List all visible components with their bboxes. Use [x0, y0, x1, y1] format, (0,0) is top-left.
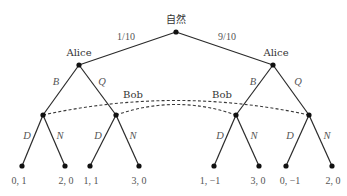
game-tree: 自然 Alice Alice Bob Bob 1/10 9/10 B Q B Q… [0, 0, 347, 196]
action-B-right: B [250, 76, 257, 87]
action-B-left: B [53, 76, 60, 87]
edge-alice-left-B [43, 65, 79, 115]
bob-node-4 [306, 112, 311, 117]
bob-node-3 [233, 112, 238, 117]
info-set-arc-inner [116, 105, 236, 116]
action-N-3: N [249, 130, 258, 141]
alice-label-right: Alice [262, 47, 288, 58]
prob-left: 1/10 [117, 31, 135, 42]
leaf-node-8 [329, 163, 334, 168]
alice-node-left [76, 62, 81, 67]
payoff-2: 2, 0 [59, 175, 74, 186]
action-N-4: N [322, 130, 331, 141]
payoff-5: 1, −1 [200, 175, 221, 186]
leaf-node-1 [19, 163, 24, 168]
prob-right: 9/10 [218, 31, 236, 42]
leaf-node-2 [62, 163, 67, 168]
action-D-1: D [22, 130, 31, 141]
payoff-1: 0, 1 [12, 175, 27, 186]
bob-node-1 [40, 112, 45, 117]
action-N-1: N [55, 130, 64, 141]
action-D-4: D [285, 130, 294, 141]
leaf-node-3 [87, 163, 92, 168]
action-N-2: N [128, 130, 137, 141]
alice-label-left: Alice [65, 47, 91, 58]
action-Q-left: Q [98, 76, 106, 87]
payoff-7: 0, −1 [280, 175, 301, 186]
leaf-node-7 [283, 163, 288, 168]
edge-alice-right-Q [273, 65, 309, 115]
action-D-3: D [215, 130, 224, 141]
payoff-6: 3, 0 [251, 175, 266, 186]
alice-node-right [270, 62, 275, 67]
payoff-4: 3, 0 [132, 175, 147, 186]
nature-node [173, 29, 178, 34]
action-D-2: D [93, 130, 102, 141]
info-set-arc-outer [43, 101, 309, 116]
action-Q-right: Q [294, 76, 302, 87]
payoff-8: 2, 0 [326, 175, 341, 186]
bob-label-right: Bob [212, 89, 232, 100]
nature-label: 自然 [166, 13, 186, 25]
bob-node-2 [113, 112, 118, 117]
leaf-node-6 [256, 163, 261, 168]
leaf-node-5 [211, 163, 216, 168]
leaf-node-4 [136, 163, 141, 168]
bob-label-left: Bob [123, 89, 143, 100]
payoff-3: 1, 1 [84, 175, 99, 186]
